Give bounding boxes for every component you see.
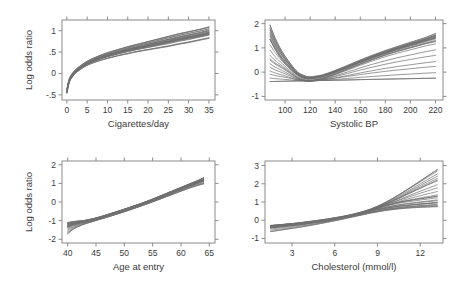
spline-curve bbox=[68, 178, 204, 224]
plot-frame bbox=[62, 20, 215, 100]
curve-bundle bbox=[67, 27, 209, 93]
x-tick-label: 12 bbox=[415, 248, 425, 258]
spline-curve bbox=[68, 178, 204, 223]
y-tick-label: -1 bbox=[251, 233, 259, 243]
x-tick-label: 3 bbox=[290, 248, 295, 258]
x-tick-label: 9 bbox=[375, 248, 380, 258]
panel-cigarettes-per-day: 05101520253035-.50.51Cigarettes/dayLog o… bbox=[0, 0, 228, 144]
plot-frame bbox=[265, 20, 443, 100]
y-tick-label: 0 bbox=[51, 197, 56, 207]
x-tick-label: 30 bbox=[184, 105, 194, 115]
y-tick-label: 2 bbox=[254, 179, 259, 189]
spline-curve-bootstrap-curve-lower bbox=[271, 206, 438, 231]
x-axis-title: Systolic BP bbox=[330, 118, 378, 129]
spline-curve bbox=[271, 198, 438, 226]
spline-curve bbox=[271, 192, 438, 228]
x-tick-label: 25 bbox=[164, 105, 174, 115]
y-tick-label: 1 bbox=[51, 178, 56, 188]
y-axis-title: Log odds ratio bbox=[23, 172, 34, 232]
x-tick-label: 15 bbox=[123, 105, 133, 115]
x-tick-label: 65 bbox=[205, 248, 215, 258]
y-tick-label: -1 bbox=[48, 216, 56, 226]
y-tick-label: 2 bbox=[51, 160, 56, 170]
x-axis-title: Cholesterol (mmol/l) bbox=[312, 261, 397, 272]
y-tick-label: -2 bbox=[48, 234, 56, 244]
x-tick-label: 35 bbox=[204, 105, 214, 115]
x-axis-title: Age at entry bbox=[113, 261, 164, 272]
spline-curve bbox=[68, 178, 204, 223]
figure-canvas: 05101520253035-.50.51Cigarettes/dayLog o… bbox=[0, 0, 456, 289]
spline-curve bbox=[68, 179, 204, 224]
y-tick-label: .5 bbox=[49, 47, 56, 57]
y-tick-label: 1 bbox=[254, 43, 259, 53]
x-tick-label: 6 bbox=[332, 248, 337, 258]
panel-age-at-entry: 404550556065-2-1012Age at entryLog odds … bbox=[0, 145, 228, 289]
plot-cigarettes: 05101520253035-.50.51Cigarettes/dayLog o… bbox=[0, 0, 228, 144]
y-axis: -2-1012 bbox=[48, 160, 218, 245]
y-tick-label: 0 bbox=[254, 215, 259, 225]
y-tick-label: 2 bbox=[254, 19, 259, 29]
x-tick-label: 0 bbox=[65, 105, 70, 115]
x-tick-label: 5 bbox=[85, 105, 90, 115]
y-tick-label: 1 bbox=[51, 26, 56, 36]
x-tick-label: 10 bbox=[103, 105, 113, 115]
panel-cholesterol: 36912-10123Cholesterol (mmol/l) bbox=[228, 145, 456, 289]
plot-systolic-bp: 100120140160180200220-1012Systolic BP bbox=[228, 0, 456, 144]
curve-bundle bbox=[270, 25, 435, 82]
y-tick-label: 0 bbox=[51, 68, 56, 78]
spline-curve bbox=[68, 184, 204, 234]
plot-frame bbox=[62, 161, 215, 243]
y-tick-label: 0 bbox=[254, 67, 259, 77]
y-axis-title: Log odds ratio bbox=[23, 30, 34, 90]
x-tick-label: 60 bbox=[176, 248, 186, 258]
spline-curve bbox=[271, 171, 438, 226]
x-tick-label: 40 bbox=[63, 248, 73, 258]
x-tick-label: 180 bbox=[378, 105, 392, 115]
panel-systolic-bp: 100120140160180200220-1012Systolic BP bbox=[228, 0, 456, 144]
spline-curve-bootstrap-curve-lower bbox=[68, 184, 204, 234]
spline-curve bbox=[271, 176, 438, 227]
x-tick-label: 100 bbox=[278, 105, 292, 115]
spline-curve bbox=[68, 178, 204, 223]
y-tick-label: -.5 bbox=[46, 90, 56, 100]
spline-curve-bootstrap-curve-upper bbox=[270, 25, 435, 77]
spline-curve bbox=[68, 178, 204, 223]
y-tick-label: 3 bbox=[254, 161, 259, 171]
x-tick-label: 160 bbox=[353, 105, 367, 115]
x-tick-label: 20 bbox=[143, 105, 153, 115]
y-tick-label: -1 bbox=[251, 91, 259, 101]
x-tick-label: 220 bbox=[428, 105, 442, 115]
curve-bundle bbox=[271, 170, 438, 232]
spline-curve-bootstrap-curve-mid-steep bbox=[271, 180, 438, 228]
x-tick-label: 120 bbox=[303, 105, 317, 115]
x-tick-label: 200 bbox=[403, 105, 417, 115]
curve-bundle bbox=[68, 178, 204, 234]
spline-curve bbox=[271, 206, 438, 231]
x-axis-title: Cigarettes/day bbox=[108, 118, 170, 129]
x-tick-label: 50 bbox=[120, 248, 130, 258]
spline-curve bbox=[271, 200, 438, 226]
spline-curve-bootstrap-curve-upper bbox=[68, 178, 204, 223]
plot-age-at-entry: 404550556065-2-1012Age at entryLog odds … bbox=[0, 145, 228, 289]
plot-cholesterol: 36912-10123Cholesterol (mmol/l) bbox=[228, 145, 456, 289]
x-tick-label: 55 bbox=[148, 248, 158, 258]
y-tick-label: 1 bbox=[254, 197, 259, 207]
x-tick-label: 45 bbox=[91, 248, 101, 258]
x-tick-label: 140 bbox=[328, 105, 342, 115]
